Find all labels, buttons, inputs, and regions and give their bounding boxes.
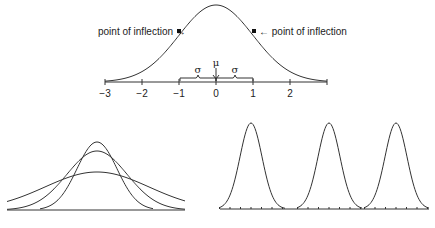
mu-arrow-icon bbox=[213, 68, 219, 79]
bottom-left-figure bbox=[7, 142, 185, 210]
curve-mean-1 bbox=[220, 123, 285, 208]
x-axis-tick-label: 1 bbox=[250, 88, 256, 99]
x-axis-tick-label: −3 bbox=[99, 88, 111, 99]
curve-mean-3 bbox=[365, 123, 429, 208]
x-axis-tick-label: 2 bbox=[287, 88, 293, 99]
sigma-brace-left bbox=[180, 75, 216, 81]
curve-small-sigma bbox=[40, 142, 153, 209]
x-axis-tick-label: −2 bbox=[136, 88, 148, 99]
curve-large-sigma bbox=[7, 172, 185, 202]
curve-medium-sigma bbox=[7, 151, 185, 209]
inflection-label-left: point of inflection → bbox=[98, 26, 186, 37]
x-axis-tick-label: −1 bbox=[173, 88, 185, 99]
mu-label: μ bbox=[213, 57, 220, 68]
top-normal-curve-figure: −3−2−1012 point of inflection → ← point … bbox=[98, 5, 347, 99]
sigma-label-left: σ bbox=[195, 64, 202, 75]
bottom-right-figure bbox=[220, 123, 430, 209]
sigma-label-right: σ bbox=[232, 64, 239, 75]
sigma-brace-right bbox=[216, 75, 253, 81]
inflection-point-right bbox=[252, 29, 256, 33]
x-axis-tick-label: 0 bbox=[213, 88, 219, 99]
figure-canvas: −3−2−1012 point of inflection → ← point … bbox=[0, 0, 435, 228]
curve-mean-2 bbox=[297, 123, 362, 208]
inflection-label-right: ← point of inflection bbox=[259, 26, 347, 37]
